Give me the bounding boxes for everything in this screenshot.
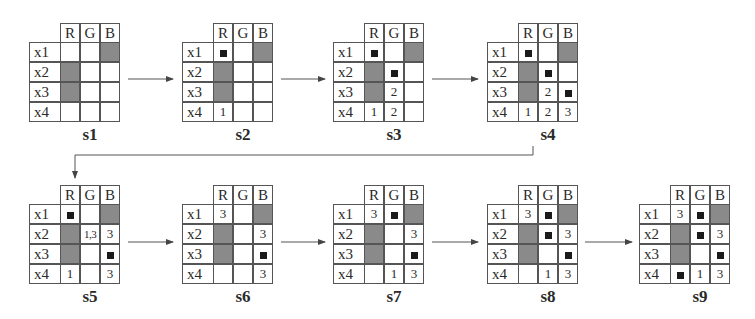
row-label: x3 [29,82,61,102]
state-label: s5 [60,287,120,307]
shaded-cell [60,82,80,102]
row-label: x2 [29,62,61,82]
grid-cell [690,244,710,264]
state-grid-7: RGBx13x23x3x413s7 [333,185,426,287]
state-grid-5: RGBx1x21,33x3x413s5 [29,185,122,287]
state-grid-6: RGBx13x23x3x43s6 [182,185,275,287]
marker-square-icon [545,232,552,239]
row-label: x2 [333,62,365,82]
grid-cell: 3 [364,204,384,224]
column-header: G [538,185,558,205]
column-header: G [233,185,253,205]
row-label: x2 [29,224,61,244]
column-header: B [100,23,120,43]
shaded-cell [364,224,384,244]
row-label: x3 [639,244,671,264]
grid-cell [80,82,100,102]
marker-square-icon [107,252,114,259]
state-table: RGBx13x23x3x413 [333,185,426,287]
row-label: x2 [333,224,365,244]
grid-cell [384,224,404,244]
row-label: x3 [487,244,519,264]
grid-cell [253,102,273,122]
state-table: RGBx13x23x3x413 [487,185,580,287]
row-label: x2 [182,62,214,82]
shaded-cell [670,224,690,244]
state-table: RGBx13x23x3x413 [639,185,732,287]
row-label: x4 [29,264,61,284]
shaded-cell [404,42,424,62]
grid-cell [384,42,404,62]
grid-cell [538,224,558,244]
row-label: x1 [487,42,519,62]
row-label: x3 [182,244,214,264]
marker-square-icon [697,232,704,239]
shaded-cell [60,224,80,244]
shaded-cell [100,42,120,62]
marker-square-icon [67,212,74,219]
grid-cell: 1 [364,102,384,122]
grid-cell: 3 [213,204,233,224]
state-grid-8: RGBx13x23x3x413s8 [487,185,580,287]
grid-cell: 1 [60,264,80,284]
shaded-cell [253,42,273,62]
column-header: R [213,23,233,43]
grid-cell [558,82,578,102]
row-label: x2 [487,224,519,244]
grid-cell: 3 [253,224,273,244]
marker-square-icon [525,50,532,57]
column-header: G [233,23,253,43]
column-header: G [690,185,710,205]
grid-cell [404,102,424,122]
grid-cell [690,224,710,244]
grid-cell [100,62,120,82]
shaded-cell [518,82,538,102]
column-header: B [100,185,120,205]
grid-cell [404,82,424,102]
column-header: R [518,23,538,43]
row-label: x1 [182,42,214,62]
grid-cell: 3 [100,264,120,284]
state-table: RGBx1x21,33x3x413 [29,185,122,287]
column-header: R [518,185,538,205]
column-header: R [670,185,690,205]
shaded-cell [213,224,233,244]
grid-cell: 3 [670,204,690,224]
grid-cell [538,62,558,82]
column-header: R [364,185,384,205]
grid-cell: 3 [404,264,424,284]
grid-cell [233,102,253,122]
column-header: B [710,185,730,205]
grid-cell [60,42,80,62]
column-header: G [384,23,404,43]
grid-cell: 3 [558,264,578,284]
state-table: RGBx1x2x3x41 [182,23,275,125]
grid-cell [233,244,253,264]
marker-square-icon [371,50,378,57]
grid-cell [213,264,233,284]
state-label: s4 [518,125,578,145]
column-header: B [558,23,578,43]
row-label: x3 [29,244,61,264]
grid-cell [233,264,253,284]
grid-cell [558,62,578,82]
marker-square-icon [565,252,572,259]
shaded-cell [60,62,80,82]
grid-cell: 2 [384,82,404,102]
row-label: x1 [333,42,365,62]
shaded-cell [558,204,578,224]
shaded-cell [253,204,273,224]
row-label: x2 [639,224,671,244]
shaded-cell [518,62,538,82]
row-label: x2 [487,62,519,82]
shaded-cell [518,224,538,244]
state-grid-1: RGBx1x2x3x4s1 [29,23,122,125]
grid-cell [253,82,273,102]
grid-cell [100,102,120,122]
grid-cell: 1 [518,102,538,122]
marker-square-icon [565,90,572,97]
grid-cell: 1,3 [80,224,100,244]
grid-cell: 3 [253,264,273,284]
marker-square-icon [391,70,398,77]
row-label: x2 [182,224,214,244]
